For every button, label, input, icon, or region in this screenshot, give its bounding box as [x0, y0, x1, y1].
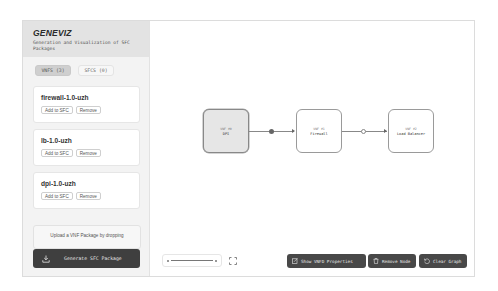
graph-node-load-balancer[interactable]: VNF #2 Load Balancer	[388, 109, 434, 153]
upload-dropzone[interactable]: Upload a VNF Package by dropping	[33, 225, 141, 249]
remove-vnf-button[interactable]: Remove	[76, 149, 101, 157]
add-to-sfc-button[interactable]: Add to SFC	[41, 149, 73, 157]
vnf-card: firewall-1.0-uzh Add to SFC Remove	[33, 86, 140, 123]
edge-handle-hollow[interactable]	[361, 129, 366, 134]
vnf-card: dpi-1.0-uzh Add to SFC Remove	[33, 172, 140, 209]
edge-handle-filled[interactable]	[269, 129, 274, 134]
vnf-name: dpi-1.0-uzh	[41, 180, 139, 187]
add-to-sfc-button[interactable]: Add to SFC	[41, 192, 73, 200]
show-vnfd-properties-label: Show VNFD Properties	[301, 259, 353, 264]
zoom-track[interactable]	[171, 260, 213, 261]
graph-node-firewall[interactable]: VNF #1 Firewall	[296, 109, 342, 153]
sidebar: GENEVIZ Generation and Visualization of …	[23, 21, 150, 276]
graph-canvas[interactable]: VNF #0 DPI VNF #1 Firewall VNF #2 Load B…	[151, 21, 474, 276]
tab-sfcs[interactable]: SFCS (0)	[78, 65, 114, 76]
app-subtitle: Generation and Visualization of SFC Pack…	[33, 40, 143, 52]
vnf-name: lb-1.0-uzh	[41, 137, 139, 144]
remove-vnf-button[interactable]: Remove	[76, 192, 101, 200]
fullscreen-icon	[229, 257, 237, 265]
remove-node-button[interactable]: Remove Node	[368, 254, 416, 268]
generate-sfc-package-button[interactable]: Generate SFC Package	[33, 249, 140, 268]
tab-vnfs[interactable]: VNFS (3)	[35, 65, 71, 76]
trash-icon	[373, 258, 379, 264]
arrow-head-icon	[384, 129, 387, 133]
vnf-list: firewall-1.0-uzh Add to SFC Remove lb-1.…	[23, 83, 149, 209]
zoom-max-dot	[215, 260, 217, 262]
arrow-head-icon	[292, 129, 295, 133]
app-title: GENEVIZ	[33, 28, 143, 38]
vnf-card: lb-1.0-uzh Add to SFC Remove	[33, 129, 140, 166]
edit-icon	[292, 258, 298, 264]
clear-graph-label: Clear Graph	[433, 259, 461, 264]
generate-button-label: Generate SFC Package	[64, 256, 122, 261]
remove-vnf-button[interactable]: Remove	[76, 106, 101, 114]
vnf-name: firewall-1.0-uzh	[41, 94, 139, 101]
graph-node-dpi[interactable]: VNF #0 DPI	[203, 109, 249, 153]
fit-view-button[interactable]	[228, 256, 237, 265]
zoom-slider[interactable]	[162, 254, 222, 267]
zoom-min-dot	[167, 260, 169, 262]
sidebar-header: GENEVIZ Generation and Visualization of …	[23, 21, 149, 57]
tab-bar: VNFS (3) SFCS (0)	[23, 57, 149, 83]
reset-icon	[424, 258, 430, 264]
clear-graph-button[interactable]: Clear Graph	[419, 254, 467, 268]
remove-node-label: Remove Node	[382, 259, 410, 264]
app-window: GENEVIZ Generation and Visualization of …	[22, 20, 475, 277]
download-icon	[42, 255, 50, 263]
show-vnfd-properties-button[interactable]: Show VNFD Properties	[287, 254, 366, 268]
add-to-sfc-button[interactable]: Add to SFC	[41, 106, 73, 114]
